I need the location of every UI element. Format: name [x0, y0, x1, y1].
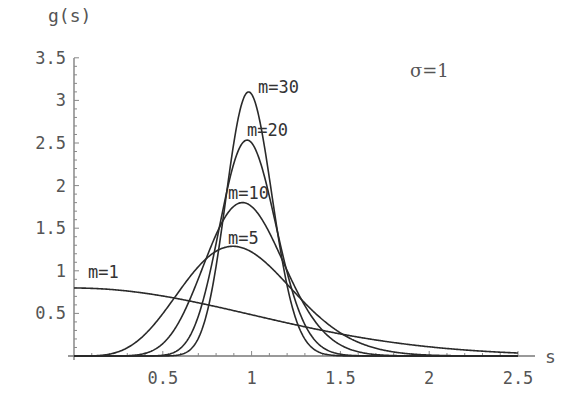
curves: [74, 92, 518, 356]
x-tick-label: 2: [424, 368, 434, 388]
x-tick-label: 1: [246, 368, 256, 388]
x-axis-title: s: [545, 346, 556, 367]
x-tick-label: 2.5: [503, 368, 534, 388]
y-tick-label: 0.5: [35, 303, 66, 323]
curve-label-m-10: m=10: [228, 183, 269, 203]
y-tick-label: 2: [56, 176, 66, 196]
y-axis-title: g(s): [48, 5, 91, 26]
y-tick-label: 1: [56, 261, 66, 281]
x-tick-label: 1.5: [325, 368, 356, 388]
curve-label-m-1: m=1: [88, 262, 119, 282]
chart: 0.511.522.50.511.522.533.5 m=1m=5m=10m=2…: [0, 0, 585, 405]
curve-m-20: [74, 140, 518, 356]
y-tick-label: 3.5: [35, 48, 66, 68]
curve-labels: m=1m=5m=10m=20m=30: [88, 77, 299, 282]
curve-m-30: [74, 92, 518, 356]
curve-m-10: [74, 203, 518, 356]
curve-label-m-30: m=30: [258, 77, 299, 97]
sigma-annotation: σ=1: [410, 60, 449, 81]
y-tick-label: 2.5: [35, 133, 66, 153]
x-tick-label: 0.5: [147, 368, 178, 388]
axes: [68, 58, 535, 360]
y-tick-label: 3: [56, 90, 66, 110]
tick-labels: 0.511.522.50.511.522.533.5: [35, 48, 533, 388]
y-tick-label: 1.5: [35, 218, 66, 238]
curve-label-m-20: m=20: [247, 120, 288, 140]
curve-label-m-5: m=5: [228, 228, 259, 248]
ticks: [74, 58, 518, 356]
